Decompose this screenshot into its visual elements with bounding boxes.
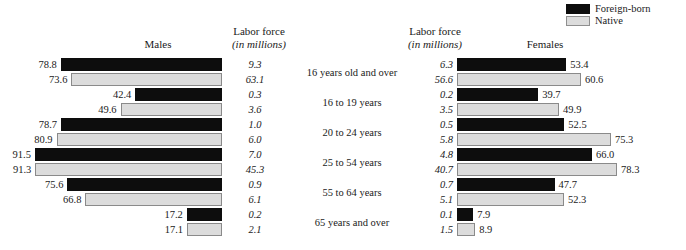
value-label-males-rate: 66.8: [0, 193, 81, 207]
bar-females-foreign-born: [457, 148, 592, 161]
bar-males-foreign-born: [61, 58, 222, 71]
bar-females-foreign-born: [457, 58, 566, 71]
value-label-females-labor-force: 0.7: [395, 178, 453, 192]
value-label-males-rate: 91.3: [0, 163, 31, 177]
value-label-females-labor-force: 5.1: [395, 193, 453, 207]
bar-females-native: [457, 133, 611, 146]
legend-item-foreign-born: Foreign-born: [566, 3, 650, 14]
value-label-females-rate: 60.6: [585, 73, 603, 87]
value-label-males-rate: 49.6: [0, 103, 117, 117]
bar-males-foreign-born: [61, 118, 222, 131]
bar-females-native: [457, 223, 475, 236]
value-label-females-labor-force: 40.7: [395, 163, 453, 177]
value-label-males-labor-force: 7.0: [226, 148, 284, 162]
value-label-males-rate: 17.2: [0, 208, 183, 222]
column-header-labor-force-females: Labor force (in millions): [404, 25, 466, 50]
bar-females-foreign-born: [457, 88, 538, 101]
category-row: 65 years and over17.20.27.90.117.12.18.9…: [0, 208, 686, 238]
value-label-males-rate: 75.6: [0, 178, 63, 192]
value-label-males-labor-force: 6.1: [226, 193, 284, 207]
category-row: 16 years old and over78.89.353.46.373.66…: [0, 58, 686, 88]
bar-males-foreign-born: [187, 208, 222, 221]
category-label: 16 to 19 years: [293, 96, 411, 109]
value-label-males-labor-force: 6.0: [226, 133, 284, 147]
value-label-females-rate: 75.3: [615, 133, 633, 147]
value-label-males-labor-force: 2.1: [226, 223, 284, 237]
value-label-males-labor-force: 0.9: [226, 178, 284, 192]
value-label-females-labor-force: 56.6: [395, 73, 453, 87]
value-label-females-labor-force: 0.5: [395, 118, 453, 132]
value-label-males-rate: 42.4: [0, 88, 131, 102]
column-header-labor-force-males: Labor force (in millions): [228, 25, 290, 50]
legend-swatch-native-icon: [566, 16, 590, 26]
panel-title-males: Males: [118, 38, 198, 51]
category-label: 55 to 64 years: [293, 186, 411, 199]
panel-title-females: Females: [505, 38, 585, 51]
value-label-males-labor-force: 63.1: [226, 73, 284, 87]
category-label: 16 years old and over: [293, 66, 411, 79]
value-label-males-labor-force: 45.3: [226, 163, 284, 177]
bar-females-foreign-born: [457, 118, 564, 131]
bar-males-foreign-born: [67, 178, 222, 191]
bar-males-native: [187, 223, 222, 236]
value-label-females-labor-force: 1.5: [395, 223, 453, 237]
bar-females-foreign-born: [457, 178, 555, 191]
legend-label-native: Native: [595, 15, 623, 26]
value-label-males-rate: 78.8: [0, 58, 57, 72]
category-row: 20 to 24 years78.71.052.50.580.96.075.35…: [0, 118, 686, 148]
category-label: 65 years and over: [293, 216, 411, 229]
value-label-males-rate: 91.5: [0, 148, 31, 162]
value-label-males-rate: 17.1: [0, 223, 183, 237]
legend-item-native: Native: [566, 15, 650, 26]
chart-plot-area: 16 years old and over78.89.353.46.373.66…: [0, 58, 686, 238]
bar-females-foreign-born: [457, 208, 473, 221]
value-label-females-rate: 39.7: [542, 88, 560, 102]
labor-force-line1: Labor force: [404, 25, 466, 38]
bar-females-native: [457, 193, 564, 206]
value-label-males-labor-force: 9.3: [226, 58, 284, 72]
labor-force-line2: (in millions): [404, 38, 466, 51]
category-row: 55 to 64 years75.60.947.70.766.86.152.35…: [0, 178, 686, 208]
value-label-females-rate: 66.0: [596, 148, 614, 162]
value-label-females-rate: 47.7: [559, 178, 577, 192]
value-label-females-rate: 8.9: [479, 223, 492, 237]
category-label: 20 to 24 years: [293, 126, 411, 139]
value-label-females-labor-force: 6.3: [395, 58, 453, 72]
labor-force-line1: Labor force: [228, 25, 290, 38]
category-label: 25 to 54 years: [293, 156, 411, 169]
value-label-females-labor-force: 0.2: [395, 88, 453, 102]
bar-females-native: [457, 163, 617, 176]
bar-males-foreign-born: [35, 148, 222, 161]
legend: Foreign-born Native: [566, 3, 650, 26]
value-label-females-rate: 53.4: [570, 58, 588, 72]
value-label-males-labor-force: 3.6: [226, 103, 284, 117]
bar-males-native: [71, 73, 222, 86]
bar-males-foreign-born: [135, 88, 222, 101]
labor-force-line2: (in millions): [228, 38, 290, 51]
value-label-males-rate: 80.9: [0, 133, 53, 147]
value-label-females-rate: 7.9: [477, 208, 490, 222]
value-label-females-rate: 78.3: [621, 163, 639, 177]
value-label-females-labor-force: 3.5: [395, 103, 453, 117]
bar-males-native: [85, 193, 222, 206]
bar-females-native: [457, 73, 581, 86]
value-label-females-labor-force: 0.1: [395, 208, 453, 222]
bar-males-native: [57, 133, 222, 146]
value-label-females-rate: 52.3: [568, 193, 586, 207]
value-label-males-rate: 78.7: [0, 118, 57, 132]
value-label-males-rate: 73.6: [0, 73, 67, 87]
value-label-females-labor-force: 5.8: [395, 133, 453, 147]
value-label-males-labor-force: 0.2: [226, 208, 284, 222]
value-label-females-rate: 49.9: [563, 103, 581, 117]
bar-females-native: [457, 103, 559, 116]
legend-swatch-foreign-born-icon: [566, 4, 590, 14]
value-label-males-labor-force: 1.0: [226, 118, 284, 132]
value-label-males-labor-force: 0.3: [226, 88, 284, 102]
value-label-females-labor-force: 4.8: [395, 148, 453, 162]
category-row: 25 to 54 years91.57.066.04.891.345.378.3…: [0, 148, 686, 178]
legend-label-foreign-born: Foreign-born: [595, 3, 650, 14]
bar-males-native: [35, 163, 222, 176]
bar-males-native: [121, 103, 222, 116]
category-row: 16 to 19 years42.40.339.70.249.63.649.93…: [0, 88, 686, 118]
value-label-females-rate: 52.5: [568, 118, 586, 132]
